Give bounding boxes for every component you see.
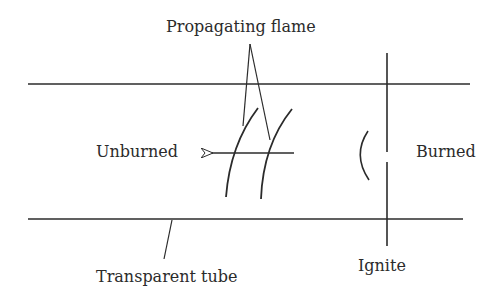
label-transparent-tube: Transparent tube (96, 269, 238, 285)
label-ignite: Ignite (358, 258, 406, 274)
initial-flame-arc (360, 131, 369, 180)
flame-front-2 (261, 109, 292, 199)
flame-leader-right (250, 44, 270, 140)
label-propagating-flame: Propagating flame (166, 19, 316, 35)
label-burned: Burned (416, 144, 476, 160)
flame-tube-diagram: Propagating flame Unburned Burned Transp… (0, 0, 501, 306)
flame-leader-left (243, 44, 250, 126)
label-unburned: Unburned (96, 144, 178, 160)
tube-leader (164, 220, 172, 259)
